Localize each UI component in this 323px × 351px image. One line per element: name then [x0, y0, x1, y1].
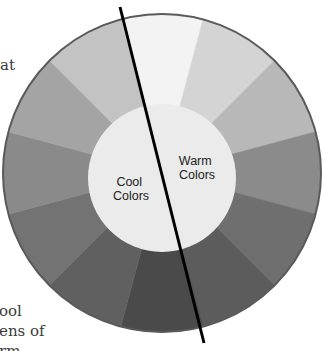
color-wheel: Cool Colors Warm Colors: [0, 0, 323, 351]
cool-colors-label: Cool Colors: [113, 175, 149, 203]
warm-colors-label: Warm Colors: [179, 154, 215, 182]
color-wheel-figure: at ool ens of rm Cool Colors Warm Colors: [0, 0, 323, 351]
